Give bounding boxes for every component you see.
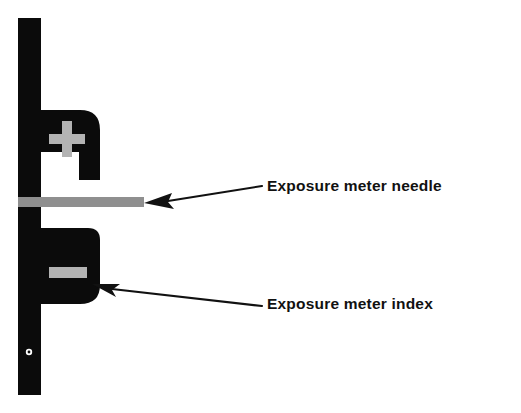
exposure-meter-illustration [0,0,521,413]
callout-needle-label: Exposure meter needle [267,178,442,194]
figure-canvas: Exposure meter needle Exposure meter ind… [0,0,521,413]
upper-lobe-tail [79,168,100,180]
index-bar [49,267,87,278]
needle-bar [18,197,144,207]
plus-icon-vertical [62,121,72,157]
callout-index-label: Exposure meter index [267,296,433,312]
pivot-hole-center [28,351,31,354]
